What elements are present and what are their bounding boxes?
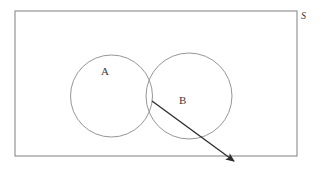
set-b-label: B <box>179 95 186 106</box>
set-b-circle <box>146 53 232 139</box>
diagram-canvas <box>0 0 325 177</box>
venn-diagram-figure: A B S <box>0 0 325 177</box>
sample-space-rectangle <box>15 11 297 156</box>
sample-space-label: S <box>301 11 306 21</box>
set-a-circle <box>71 55 153 137</box>
set-a-label: A <box>101 66 109 77</box>
